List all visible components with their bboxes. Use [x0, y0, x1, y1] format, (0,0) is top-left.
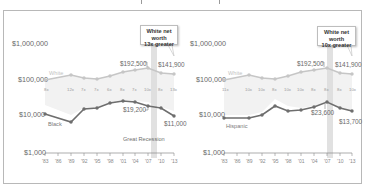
svg-text:'07: '07: [145, 158, 152, 164]
svg-text:10x: 10x: [349, 87, 357, 92]
svg-text:'01: '01: [298, 158, 305, 164]
white-end-value: $141,900: [158, 61, 185, 68]
svg-text:'01: '01: [120, 158, 127, 164]
svg-text:'89: '89: [68, 158, 75, 164]
callout-box-right: White net worth 10x greater: [317, 26, 356, 46]
svg-text:'98: '98: [107, 158, 114, 164]
svg-text:'83: '83: [221, 158, 228, 164]
svg-text:10x: 10x: [297, 87, 305, 92]
svg-text:'10: '10: [337, 158, 344, 164]
svg-text:'04: '04: [311, 158, 318, 164]
svg-text:12x: 12x: [67, 87, 75, 92]
svg-text:'89: '89: [246, 158, 253, 164]
callout-line2: 10x greater: [321, 42, 352, 49]
callout-line2: 13x greater: [144, 41, 174, 48]
y-tick-label: $1,000,000: [190, 39, 226, 48]
y-tick-label: $10,000: [19, 110, 45, 119]
svg-text:'13: '13: [171, 158, 178, 164]
recession-label: Great Recession: [123, 136, 165, 142]
svg-text:10x: 10x: [284, 87, 292, 92]
callout-box-left: White net worth 13x greater: [140, 25, 178, 45]
svg-text:'95: '95: [94, 158, 101, 164]
y-tick-label: $1,000: [203, 148, 225, 157]
hispanic-end-value: $13,700: [339, 118, 363, 125]
svg-text:10x: 10x: [144, 87, 152, 92]
x-tick-labels: '83 '86 '89 '92 '95 '98 '01 '04 '07 '10 …: [221, 158, 356, 164]
black-end-value: $11,000: [164, 120, 187, 127]
svg-text:'86: '86: [55, 158, 62, 164]
white-peak-value: $192,500: [297, 60, 324, 67]
svg-text:'86: '86: [234, 158, 241, 164]
callout-line1: White net worth: [144, 28, 174, 41]
svg-text:10x: 10x: [258, 87, 266, 92]
black-series-label: Black: [48, 121, 62, 127]
white-end-value: $141,900: [335, 61, 362, 68]
svg-text:'07: '07: [324, 158, 331, 164]
svg-text:'95: '95: [272, 158, 279, 164]
black-peak-value: $19,200: [123, 106, 147, 113]
hispanic-peak-value: $23,600: [311, 109, 335, 116]
y-tick-label: $100,000: [196, 75, 226, 84]
svg-text:'92: '92: [81, 158, 88, 164]
white-series-label: White: [228, 70, 242, 76]
svg-text:'92: '92: [259, 158, 266, 164]
y-tick-label: $1,000: [24, 148, 46, 157]
y-tick-label: $1,000,000: [12, 39, 48, 48]
svg-text:11x: 11x: [222, 87, 229, 92]
svg-text:'83: '83: [42, 158, 49, 164]
svg-text:13x: 13x: [170, 87, 178, 92]
svg-text:10x: 10x: [245, 87, 253, 92]
white-peak-value: $192,500: [120, 60, 147, 67]
white-series-label: White: [49, 70, 63, 76]
x-tick-labels: '83 '86 '89 '92 '95 '98 '01 '04 '07 '10 …: [42, 158, 178, 164]
y-tick-label: $10,000: [199, 110, 225, 119]
svg-text:'10: '10: [158, 158, 165, 164]
svg-text:'98: '98: [285, 158, 292, 164]
charts-svg: $1,000,000 $100,000 $10,000 $1,000 '83 '…: [0, 0, 367, 186]
svg-text:'04: '04: [132, 158, 139, 164]
hispanic-series-label: Hispanic: [226, 123, 248, 129]
svg-text:'13: '13: [349, 158, 356, 164]
callout-line1: White net worth: [321, 29, 352, 42]
